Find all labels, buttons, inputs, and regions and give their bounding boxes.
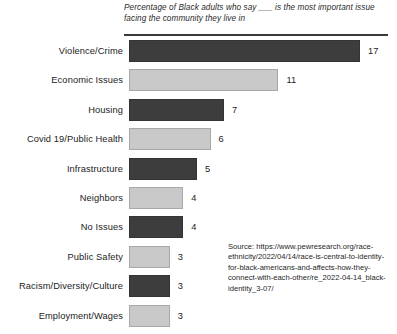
category-label: Economic Issues (51, 75, 123, 85)
bar-value-label: 6 (219, 134, 224, 144)
bar-value-label: 11 (286, 75, 296, 85)
category-label: No Issues (81, 222, 123, 232)
bar (129, 69, 278, 91)
bar (129, 246, 170, 268)
category-label: Employment/Wages (39, 311, 123, 321)
bar-chart-figure: Percentage of Black adults who say ___ i… (0, 0, 397, 334)
bar (129, 40, 360, 62)
bar-value-label: 3 (178, 281, 183, 291)
chart-top-rule (124, 34, 388, 36)
category-label: Covid 19/Public Health (27, 134, 123, 144)
bar (129, 216, 183, 238)
bar-value-label: 4 (191, 222, 196, 232)
bar-value-label: 3 (178, 311, 183, 321)
category-label: Public Safety (68, 252, 123, 262)
source-note: Source: https://www.pewresearch.org/race… (228, 242, 393, 294)
bar-row: Employment/Wages3 (0, 305, 397, 327)
bar-value-label: 17 (368, 46, 378, 56)
bar-value-label: 7 (232, 105, 237, 115)
bar-row: Violence/Crime17 (0, 40, 397, 62)
bar (129, 158, 197, 180)
bar-value-label: 3 (178, 252, 183, 262)
category-label: Infrastructure (67, 164, 123, 174)
category-label: Violence/Crime (59, 46, 123, 56)
category-label: Racism/Diversity/Culture (19, 281, 123, 291)
bar (129, 99, 224, 121)
bar-row: Housing7 (0, 99, 397, 121)
bar-value-label: 5 (205, 164, 210, 174)
bar-row: Economic Issues11 (0, 69, 397, 91)
bar-row: Neighbors4 (0, 187, 397, 209)
category-label: Housing (88, 105, 123, 115)
bar-row: Infrastructure5 (0, 158, 397, 180)
bar-row: No Issues4 (0, 216, 397, 238)
bar (129, 305, 170, 327)
bar (129, 187, 183, 209)
category-label: Neighbors (80, 193, 123, 203)
bar-row: Covid 19/Public Health6 (0, 128, 397, 150)
bar (129, 275, 170, 297)
chart-title: Percentage of Black adults who say ___ i… (124, 2, 386, 25)
bar (129, 128, 211, 150)
bar-value-label: 4 (191, 193, 196, 203)
